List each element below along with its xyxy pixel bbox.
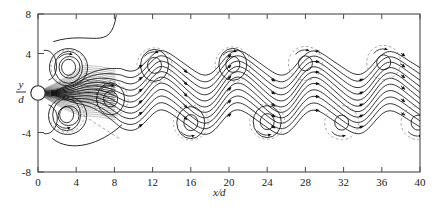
flow-arrow — [401, 64, 404, 67]
vortex-core-loop-inner — [226, 56, 240, 72]
x-tick-label: 28 — [300, 176, 312, 188]
vortex-core-loop-inner — [62, 59, 76, 75]
flow-arrow — [401, 75, 404, 78]
x-axis-label: x / d — [212, 186, 226, 198]
x-tick-label: 16 — [185, 176, 197, 188]
separating-streamline — [44, 105, 58, 134]
x-tick-label: 24 — [262, 176, 274, 188]
x-tick-labels: 0481216202428323640 — [35, 176, 426, 188]
y-tick-label: 8 — [26, 8, 32, 20]
y-tick-label: -4 — [22, 127, 32, 139]
svg-text:d: d — [220, 186, 226, 198]
circulation-arrow — [332, 132, 345, 136]
svg-text:d: d — [18, 93, 24, 105]
cylinder-marker — [31, 86, 45, 100]
flow-arrow — [401, 99, 404, 102]
figure-container: 0481216202428323640 -8-448 x / d y d — [0, 0, 436, 210]
flow-arrow — [183, 81, 186, 85]
x-tick-label: 32 — [338, 176, 349, 188]
flow-arrow — [401, 53, 404, 55]
x-tick-label: 0 — [35, 176, 41, 188]
vortex-core-loop-inner — [148, 57, 162, 73]
circulation-arrow — [408, 132, 421, 136]
x-tick-label: 12 — [147, 176, 158, 188]
vortex-core-loop — [219, 48, 247, 80]
flow-arrow — [183, 92, 186, 96]
flow-arrow — [401, 86, 404, 89]
streamline-field — [43, 15, 435, 146]
y-tick-label: -8 — [22, 166, 32, 178]
vortex-core-dashed — [401, 106, 435, 140]
svg-text:y: y — [18, 78, 24, 90]
vortex-core-loop — [141, 49, 169, 81]
x-tick-label: 8 — [112, 176, 118, 188]
x-tick-label: 40 — [415, 176, 427, 188]
streamline-plot: 0481216202428323640 -8-448 x / d y d — [0, 0, 436, 210]
vortex-core-loop-inner — [60, 107, 74, 123]
x-tick-label: 4 — [73, 176, 79, 188]
vortex-core-loop — [298, 56, 312, 71]
vortex-core-loop-inner — [184, 115, 198, 131]
x-tick-label: 36 — [376, 176, 388, 188]
y-tick-label: 4 — [26, 48, 32, 60]
separating-streamline — [53, 15, 116, 42]
streamline — [51, 95, 423, 124]
y-axis-label: y d — [16, 78, 26, 105]
